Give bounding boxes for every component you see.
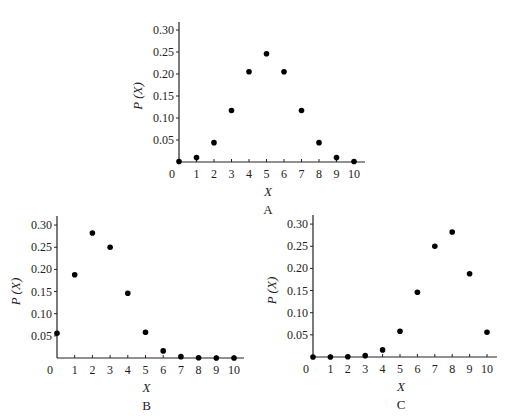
data-point [316, 140, 322, 146]
chart-caption: A [263, 202, 273, 217]
data-point [143, 330, 149, 336]
y-tick-label: 0.20 [287, 261, 308, 275]
x-tick-label: 7 [299, 167, 305, 181]
data-point [299, 108, 305, 114]
y-tick-label: 0.25 [287, 239, 308, 253]
y-axis-label: P (X) [130, 82, 145, 111]
chart-caption: C [397, 397, 406, 412]
data-point [449, 229, 455, 235]
x-tick-label: 10 [228, 363, 240, 377]
x-tick-label: 8 [316, 167, 322, 181]
y-tick-label: 0.10 [31, 307, 52, 321]
y-tick-label: 0.30 [153, 23, 174, 37]
x-tick-label: 4 [125, 363, 131, 377]
data-point [178, 354, 184, 360]
y-axis-label: P (X) [264, 277, 279, 306]
data-point [380, 347, 386, 353]
x-tick-label: 3 [107, 363, 113, 377]
data-point [72, 272, 78, 278]
y-tick-label: 0.10 [153, 111, 174, 125]
y-axis-label: P (X) [8, 278, 23, 307]
y-tick-label: 0.20 [153, 67, 174, 81]
data-point [334, 155, 340, 161]
x-tick-label: 9 [213, 363, 219, 377]
x-axis-label: X [142, 380, 152, 395]
x-tick-label: 3 [229, 167, 235, 181]
data-point [196, 355, 202, 361]
data-point [345, 354, 351, 360]
x-tick-label: 7 [432, 362, 438, 376]
x-tick-label: 9 [467, 362, 473, 376]
data-point [231, 355, 237, 361]
y-tick-label: 0.30 [31, 218, 52, 232]
x-tick-label: 6 [160, 363, 166, 377]
x-tick-label: 4 [380, 362, 386, 376]
y-tick-label: 0.20 [31, 262, 52, 276]
y-tick-label: 0.05 [287, 328, 308, 342]
data-point [229, 108, 235, 114]
x-tick-label: 3 [362, 362, 368, 376]
y-tick-label: 0.15 [31, 285, 52, 299]
x-tick-label: 2 [211, 167, 217, 181]
x-tick-label: 1 [327, 362, 333, 376]
data-point [194, 155, 200, 161]
x-tick-label: 6 [281, 167, 287, 181]
x-tick-label: 2 [345, 362, 351, 376]
x-tick-label: 5 [397, 362, 403, 376]
data-point [397, 329, 403, 335]
y-tick-label: 0.05 [153, 133, 174, 147]
data-point [90, 230, 96, 236]
data-point [176, 159, 182, 165]
data-point [125, 291, 131, 297]
data-point [415, 290, 421, 296]
x-tick-label: 4 [246, 167, 252, 181]
data-point [328, 354, 334, 360]
x-tick-label: 0 [47, 363, 53, 377]
data-point [246, 69, 252, 75]
data-point [467, 271, 473, 277]
x-tick-label: 5 [264, 167, 270, 181]
data-point [432, 243, 438, 249]
x-tick-label: 10 [348, 167, 360, 181]
data-point [362, 353, 368, 359]
y-tick-label: 0.25 [153, 45, 174, 59]
data-point [211, 140, 217, 146]
x-tick-label: 1 [72, 363, 78, 377]
y-tick-label: 0.30 [287, 217, 308, 231]
data-point [214, 355, 220, 361]
y-tick-label: 0.10 [287, 306, 308, 320]
x-axis-label: X [396, 379, 406, 394]
x-tick-label: 8 [449, 362, 455, 376]
data-point [264, 51, 270, 57]
x-tick-label: 6 [414, 362, 420, 376]
chart-figure: 0.050.100.150.200.250.30012345678910XAP … [0, 0, 513, 419]
data-point [351, 159, 357, 165]
y-tick-label: 0.05 [31, 329, 52, 343]
x-tick-label: 0 [303, 362, 309, 376]
x-axis-label: X [263, 184, 273, 199]
x-tick-label: 5 [143, 363, 149, 377]
chart-b: 0.050.100.150.200.250.30012345678910XBP … [8, 216, 244, 413]
x-tick-label: 0 [169, 167, 175, 181]
y-tick-label: 0.15 [153, 89, 174, 103]
chart-c: 0.050.100.150.200.250.30012345678910XCP … [264, 215, 497, 412]
x-tick-label: 10 [481, 362, 493, 376]
y-tick-label: 0.25 [31, 240, 52, 254]
x-tick-label: 9 [334, 167, 340, 181]
chart-caption: B [142, 398, 151, 413]
chart-a: 0.050.100.150.200.250.30012345678910XAP … [130, 22, 365, 217]
data-point [160, 348, 166, 354]
x-tick-label: 1 [194, 167, 200, 181]
data-point [281, 69, 287, 75]
x-tick-label: 7 [178, 363, 184, 377]
data-point [107, 244, 113, 250]
data-point [54, 330, 60, 336]
y-tick-label: 0.15 [287, 284, 308, 298]
data-point [484, 329, 490, 335]
x-tick-label: 8 [196, 363, 202, 377]
x-tick-label: 2 [89, 363, 95, 377]
data-point [310, 354, 316, 360]
